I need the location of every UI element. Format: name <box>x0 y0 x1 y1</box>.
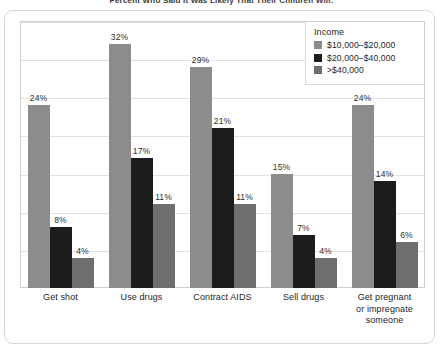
bar[interactable] <box>28 105 50 288</box>
bar[interactable] <box>352 105 374 288</box>
bar-value-label: 29% <box>188 55 214 65</box>
bar-value-label: 7% <box>291 223 317 233</box>
bar[interactable] <box>315 258 337 289</box>
legend-swatch-icon <box>314 54 322 62</box>
bar[interactable] <box>293 235 315 288</box>
bar-value-label: 15% <box>269 162 295 172</box>
bar[interactable] <box>109 44 131 288</box>
figure-title: Percent Who Said It Was Likely That Thei… <box>0 0 443 5</box>
x-axis-label: Sell drugs <box>263 292 344 304</box>
legend-swatch-icon <box>314 41 322 49</box>
bar-group: 32%17%11% <box>101 21 182 288</box>
legend-label: >$40,000 <box>327 65 364 75</box>
x-axis-label: Contract AIDS <box>182 292 263 304</box>
bar-value-label: 8% <box>48 215 74 225</box>
bar[interactable] <box>212 128 234 288</box>
legend-entry[interactable]: >$40,000 <box>314 65 418 75</box>
legend-label: $20,000–$40,000 <box>327 53 395 63</box>
bar-value-label: 14% <box>372 169 398 179</box>
legend-entry[interactable]: $10,000–$20,000 <box>314 40 418 50</box>
legend-title: Income <box>314 27 418 37</box>
bar-group: 29%21%11% <box>182 21 263 288</box>
bar[interactable] <box>131 158 153 288</box>
bar[interactable] <box>374 181 396 288</box>
bar-value-label: 24% <box>26 93 52 103</box>
bar-value-label: 4% <box>313 246 339 256</box>
x-axis-label: Get pregnantor impregnatesomeone <box>344 292 425 327</box>
bar-value-label: 21% <box>210 116 236 126</box>
bar-group: 24%8%4% <box>20 21 101 288</box>
bar-value-label: 6% <box>394 230 420 240</box>
bar[interactable] <box>271 174 293 288</box>
legend-entries: $10,000–$20,000$20,000–$40,000>$40,000 <box>314 40 418 75</box>
bar-value-label: 4% <box>70 246 96 256</box>
legend-label: $10,000–$20,000 <box>327 40 395 50</box>
bar[interactable] <box>234 204 256 288</box>
bar[interactable] <box>153 204 175 288</box>
bar-value-label: 32% <box>107 32 133 42</box>
bar-value-label: 24% <box>350 93 376 103</box>
bar-value-label: 11% <box>232 192 258 202</box>
bar[interactable] <box>72 258 94 289</box>
bar-value-label: 11% <box>151 192 177 202</box>
bar-value-label: 17% <box>129 146 155 156</box>
x-axis-label: Use drugs <box>101 292 182 304</box>
bar[interactable] <box>50 227 72 288</box>
legend-entry[interactable]: $20,000–$40,000 <box>314 53 418 63</box>
bar[interactable] <box>396 242 418 288</box>
legend-swatch-icon <box>314 66 322 74</box>
legend: Income $10,000–$20,000$20,000–$40,000>$4… <box>305 22 424 85</box>
x-axis-label: Get shot <box>20 292 101 304</box>
chart-figure: Percent Who Said It Was Likely That Thei… <box>0 0 443 354</box>
bar[interactable] <box>190 67 212 288</box>
